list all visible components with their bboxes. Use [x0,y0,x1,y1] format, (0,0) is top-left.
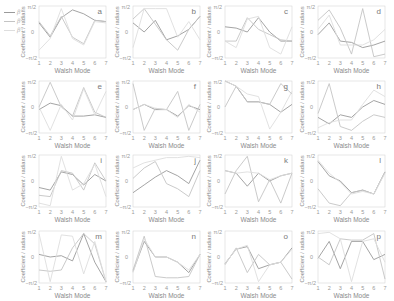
series-line-3 [39,156,106,205]
ytick-label: 0 [31,178,34,184]
xaxis-label: Walsh Mode [241,216,277,223]
xtick-label: 4 [165,209,168,215]
axes-box [39,6,106,58]
series-line-2 [133,9,200,51]
xtick-label: 3 [60,285,63,291]
xtick-label: 4 [71,60,74,66]
xtick-label: 3 [339,285,342,291]
xtick-label: 1 [37,135,40,141]
xaxis-label: Walsh Mode [334,292,370,299]
ytick-label: −π/2 [25,280,37,286]
xtick-label: 7 [290,209,293,215]
xtick-label: 6 [187,285,190,291]
ytick-label: 0 [125,178,128,184]
yaxis-label: Coefficient / radians [114,81,120,132]
yaxis-label: Coefficient / radians [206,155,212,206]
xtick-label: 3 [154,285,157,291]
xtick-label: 1 [37,60,40,66]
panel-o: π/20−π/21234567Walsh ModeCoefficient / r… [206,229,294,299]
xtick-label: 6 [187,135,190,141]
xtick-label: 6 [279,209,282,215]
xtick-label: 7 [198,285,201,291]
axes-box [39,81,106,133]
ytick-label: 0 [125,104,128,110]
panel-m: π/20−π/21234567Walsh ModeCoefficient / r… [20,229,108,299]
ytick-label: 0 [217,29,220,35]
ytick-label: 0 [217,254,220,260]
series-line-2 [225,84,292,107]
panel-letter: f [194,82,197,91]
panel-letter: k [284,156,289,165]
xtick-label: 5 [82,60,85,66]
ytick-label: −π/2 [119,55,131,61]
xtick-label: 7 [104,285,107,291]
series-line-2 [133,84,200,131]
series-line-3 [318,90,385,128]
ytick-label: 0 [125,29,128,35]
axes-box [39,155,106,207]
xtick-label: 5 [82,135,85,141]
ytick-label: −π/2 [119,280,131,286]
xtick-label: 5 [268,285,271,291]
ytick-label: π/2 [122,153,130,159]
xtick-label: 5 [176,60,179,66]
xaxis-label: Walsh Mode [334,216,370,223]
xtick-label: 2 [328,209,331,215]
xtick-label: 4 [350,285,353,291]
xtick-label: 2 [235,285,238,291]
xtick-label: 1 [316,135,319,141]
series-line-3 [225,16,292,54]
series-line-2 [133,162,200,197]
panel-d: π/20−π/21234567Walsh ModeCoefficient / r… [299,4,387,74]
xtick-label: 4 [165,285,168,291]
series-line-1 [39,10,106,37]
xtick-label: 3 [60,135,63,141]
yaxis-label: Coefficient / radians [299,155,305,206]
panel-letter: g [284,82,288,91]
xtick-label: 3 [246,209,249,215]
series-line-1 [39,172,106,190]
panel-letter: j [193,156,196,165]
ytick-label: π/2 [122,4,130,10]
xtick-label: 7 [104,209,107,215]
xtick-label: 6 [93,60,96,66]
xtick-label: 5 [361,285,364,291]
xaxis-label: Walsh Mode [241,292,277,299]
ytick-label: −π/2 [211,55,223,61]
xtick-label: 2 [49,285,52,291]
xtick-label: 1 [223,209,226,215]
series-line-1 [318,241,385,268]
ytick-label: π/2 [214,229,222,235]
yaxis-label: Coefficient / radians [20,155,26,206]
xtick-label: 6 [93,135,96,141]
ytick-label: π/2 [307,229,315,235]
xtick-label: 4 [165,60,168,66]
xtick-label: 1 [316,209,319,215]
xtick-label: 2 [235,135,238,141]
xtick-label: 2 [49,60,52,66]
panel-letter: b [192,7,197,16]
panel-letter: i [100,156,102,165]
xtick-label: 3 [154,135,157,141]
panel-n: π/20−π/21234567Walsh ModeCoefficient / r… [114,229,202,299]
yaxis-label: Coefficient / radians [20,231,26,282]
series-line-3 [318,160,385,194]
ytick-label: 0 [31,104,34,110]
ytick-label: −π/2 [304,130,316,136]
xtick-label: 6 [372,285,375,291]
xtick-label: 2 [143,135,146,141]
ytick-label: π/2 [28,4,36,10]
xtick-label: 2 [328,60,331,66]
panel-letter: a [98,7,103,16]
xaxis-label: Walsh Mode [334,142,370,149]
ytick-label: −π/2 [211,130,223,136]
xtick-label: 3 [246,285,249,291]
yaxis-label: Coefficient / radians [206,6,212,57]
ytick-label: −π/2 [304,280,316,286]
xtick-label: 1 [131,209,134,215]
xtick-label: 6 [279,135,282,141]
xtick-label: 7 [383,135,386,141]
series-line-3 [318,15,385,45]
xtick-label: 1 [223,285,226,291]
series-line-2 [318,9,385,57]
